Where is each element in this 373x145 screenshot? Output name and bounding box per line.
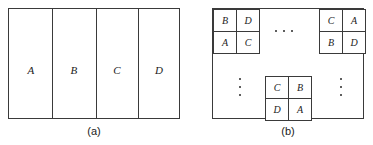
panel-b-cell: A	[213, 31, 237, 54]
ellipsis-dot	[239, 86, 241, 88]
panel-a-column-label-b: B	[64, 65, 84, 76]
ellipsis-dot	[275, 30, 277, 32]
ellipsis-dot	[283, 30, 285, 32]
panel-a-column-label-d: D	[149, 65, 169, 76]
vertical-ellipsis-left-icon	[239, 78, 241, 96]
ellipsis-dot	[291, 30, 293, 32]
ellipsis-dot	[239, 78, 241, 80]
panel-b-caption: (b)	[258, 126, 318, 137]
panel-b-cell: C	[319, 9, 343, 32]
panel-b-cell: A	[342, 9, 366, 32]
panel-b-cell: B	[213, 9, 237, 32]
panel-b-cell: B	[319, 31, 343, 54]
panel-b-cell: D	[265, 98, 289, 121]
panel-a-divider-1	[52, 9, 53, 118]
panel-b-cell: A	[288, 98, 312, 121]
panel-b-block-top-right: C A B D	[319, 9, 365, 53]
vertical-ellipsis-right-icon	[340, 78, 342, 96]
panel-b-cell: D	[342, 31, 366, 54]
ellipsis-dot	[340, 94, 342, 96]
panel-b-cell: D	[236, 9, 260, 32]
panel-a-column-label-c: C	[107, 65, 127, 76]
horizontal-ellipsis-icon	[275, 30, 293, 32]
panel-b-cell: C	[236, 31, 260, 54]
panel-b-outer-rectangle: B D A C C A B D C B D A	[212, 8, 364, 119]
panel-b-cell: C	[265, 76, 289, 99]
ellipsis-dot	[340, 86, 342, 88]
panel-a-outer-rectangle: A B C D	[8, 8, 180, 119]
panel-a-divider-2	[96, 9, 97, 118]
figure-container: A B C D B D A C C A B D C B D A	[0, 0, 373, 145]
panel-b-block-top-left: B D A C	[213, 9, 259, 53]
panel-b-cell: B	[288, 76, 312, 99]
panel-a-column-label-a: A	[21, 65, 41, 76]
panel-b-block-center-bottom: C B D A	[265, 76, 311, 120]
ellipsis-dot	[239, 94, 241, 96]
ellipsis-dot	[340, 78, 342, 80]
panel-a-divider-3	[138, 9, 139, 118]
panel-a-caption: (a)	[64, 126, 124, 137]
